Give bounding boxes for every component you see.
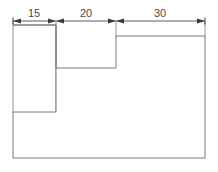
dimension-label-30: 30 <box>154 7 166 19</box>
arrowhead-right-30 <box>197 19 205 24</box>
technical-drawing-figure: 15 20 30 <box>0 0 218 172</box>
dimension-labels-group: 15 20 30 <box>28 7 166 19</box>
arrowhead-right-20 <box>108 19 116 24</box>
dimension-chain <box>13 18 205 25</box>
stepped-profile-outline <box>13 25 205 158</box>
arrowhead-right-15 <box>48 19 56 24</box>
figure-canvas: 15 20 30 <box>0 0 218 172</box>
dimension-segment-20 <box>56 19 116 24</box>
arrowhead-left-20 <box>56 19 64 24</box>
arrowhead-left-30 <box>116 19 124 24</box>
dimension-label-15: 15 <box>28 7 40 19</box>
arrowhead-left-15 <box>13 19 21 24</box>
dimension-label-20: 20 <box>80 7 92 19</box>
